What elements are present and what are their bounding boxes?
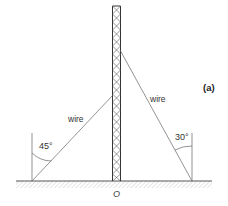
figure-label: (a) (203, 82, 215, 93)
left-wire (32, 95, 113, 181)
right-angle-label: 30° (175, 132, 189, 142)
ground (16, 181, 212, 188)
origin-label: O (113, 189, 120, 199)
left-wire-label: wire (68, 114, 84, 124)
right-wire (120, 50, 192, 181)
tower-diagram (0, 0, 228, 206)
right-wire-label: wire (150, 94, 166, 104)
right-angle-arc (175, 146, 192, 150)
left-angle-label: 45° (39, 141, 53, 151)
lattice-tower (113, 6, 121, 181)
left-angle-arc (32, 153, 52, 161)
